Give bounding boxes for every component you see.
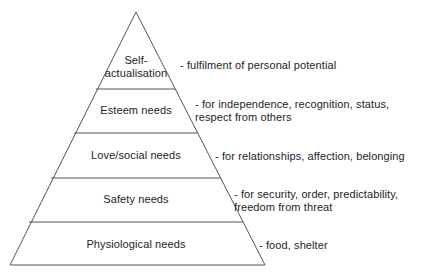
pyramid-outline [10,12,265,265]
annotation-esteem-needs: - for independence, recognition, status,… [195,98,435,124]
annotation-safety-needs: - for security, order, predictability, f… [234,188,436,214]
maslow-pyramid-diagram: Self- actualisation Esteem needs Love/so… [0,0,436,277]
tier-label-love-social-needs: Love/social needs [66,149,206,162]
tier-label-physiological-needs: Physiological needs [46,238,226,251]
annotation-love-social-needs: - for relationships, affection, belongin… [215,150,436,163]
annotation-physiological-needs: - food, shelter [259,239,429,252]
pyramid-outline-svg [0,0,436,277]
annotation-self-actualisation: - fulfilment of personal potential [180,59,430,72]
tier-label-esteem-needs: Esteem needs [76,104,196,117]
tier-label-self-actualisation: Self- actualisation [86,54,186,79]
tier-label-safety-needs: Safety needs [56,193,216,206]
